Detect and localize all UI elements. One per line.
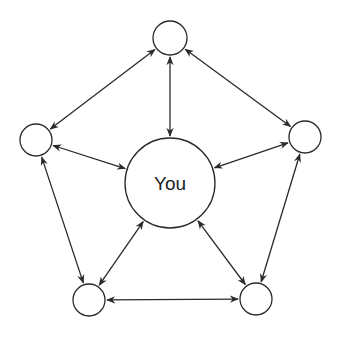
you-label: You	[154, 173, 186, 194]
edge-right-bottom-right	[261, 154, 300, 282]
edge-bottom-right-you	[198, 221, 245, 285]
node-left	[20, 124, 52, 156]
center-node-you: You	[125, 138, 215, 228]
edge-top-left	[50, 50, 155, 130]
edge-right-you	[215, 143, 289, 168]
edge-bottom-left-you	[99, 222, 143, 286]
edge-left-bottom-left	[42, 157, 84, 283]
node-bottom-left	[73, 284, 105, 316]
node-top	[153, 21, 187, 55]
node-bottom-right	[240, 283, 272, 315]
edge-bottom-left-bottom-right	[107, 299, 238, 300]
edge-top-right	[185, 49, 290, 126]
node-right	[289, 121, 321, 153]
network-diagram: You	[0, 0, 338, 339]
edge-left-you	[53, 146, 125, 169]
